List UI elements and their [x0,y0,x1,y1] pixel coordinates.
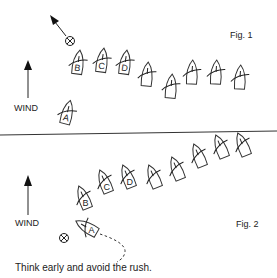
fig1-label: Fig. 1 [230,30,253,40]
fig1-panel: WIND B C D A Fig. 1 [14,15,253,126]
sailing-diagram: WIND B C D A Fig. 1 WIND [0,0,277,278]
boat-d: D [114,162,140,191]
boat-7 [185,141,211,170]
boat-a: A [56,98,79,126]
svg-text:C: C [103,182,110,192]
dashed-track-icon [100,234,125,262]
boat-6 [161,73,181,98]
boat-5 [140,162,166,191]
boat-d: D [115,49,136,75]
boat-7 [182,60,201,85]
fig2-label: Fig. 2 [236,219,259,229]
boat-9 [230,65,249,90]
boat-a: A [71,213,101,241]
wind-label: WIND [15,218,39,228]
boat-6 [163,154,189,183]
caption-text: Think early and avoid the rush. [15,262,152,273]
svg-text:D: D [126,177,133,187]
wind-arrow-icon [24,60,32,98]
boat-b: B [68,49,89,75]
boat-b: B [70,183,96,212]
boat-5 [137,61,157,86]
boat-9 [229,130,255,159]
divider [0,131,277,135]
wind-label: WIND [14,103,38,113]
boat-8 [206,60,225,85]
wind-arrow-icon [24,175,32,215]
boat-c: C [92,47,113,73]
boat-c: C [91,167,117,196]
mark-buoy-icon [66,37,75,46]
mark-buoy-icon [60,234,69,243]
fig2-panel: WIND B C D A Fig. [15,130,259,262]
boat-8 [207,132,233,161]
svg-text:A: A [88,225,94,235]
svg-text:B: B [82,198,88,208]
direction-arrow-icon [50,15,66,36]
